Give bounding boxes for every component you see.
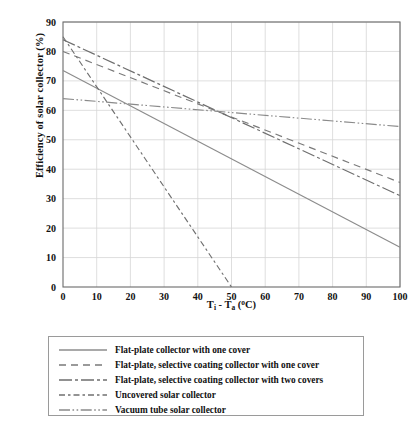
svg-text:30: 30	[46, 193, 56, 204]
legend-key-dash-dot-dot	[59, 404, 107, 416]
svg-text:40: 40	[46, 164, 56, 175]
legend-item-label: Flat-plate, selective coating collector …	[115, 374, 323, 386]
legend-key-dash-dot	[59, 389, 107, 401]
x-axis-title: Ti - Ta (oC)	[63, 299, 400, 310]
svg-text:0: 0	[51, 282, 56, 293]
chart-area: Efficiency of solar collector (%) 010203…	[0, 0, 420, 320]
svg-text:60: 60	[46, 105, 56, 116]
legend-item: Flat-plate collector with one cover	[49, 343, 363, 357]
legend-item-label: Vacuum tube solar collector	[115, 404, 226, 416]
legend-item-label: Flat-plate collector with one cover	[115, 344, 250, 356]
legend-key-dash-dot-long	[59, 374, 107, 386]
gridlines	[63, 22, 400, 287]
legend-item: Flat-plate, selective coating collector …	[49, 358, 363, 372]
y-axis-title: Efficiency of solar collector (%)	[34, 0, 45, 231]
legend-item: Flat-plate, selective coating collector …	[49, 373, 363, 387]
svg-text:70: 70	[46, 75, 56, 86]
legend-item-label: Uncovered solar collector	[115, 389, 216, 401]
legend: Flat-plate collector with one cover Flat…	[48, 336, 364, 416]
svg-text:10: 10	[46, 252, 56, 263]
x-axis-title-text: Ti - Ta (oC)	[207, 299, 256, 310]
svg-text:90: 90	[46, 17, 56, 28]
svg-text:20: 20	[46, 223, 56, 234]
legend-item: Vacuum tube solar collector	[49, 403, 363, 417]
solar-collector-efficiency-figure: Efficiency of solar collector (%) 010203…	[0, 0, 420, 448]
y-tick-labels: 0102030405060708090	[46, 17, 56, 293]
svg-text:50: 50	[46, 134, 56, 145]
svg-text:80: 80	[46, 46, 56, 57]
legend-item: Uncovered solar collector	[49, 388, 363, 402]
legend-key-dashed	[59, 359, 107, 371]
line-chart-svg: 0102030405060708090100 01020304050607080…	[0, 0, 420, 320]
legend-key-solid	[59, 344, 107, 356]
legend-item-label: Flat-plate, selective coating collector …	[115, 359, 319, 371]
